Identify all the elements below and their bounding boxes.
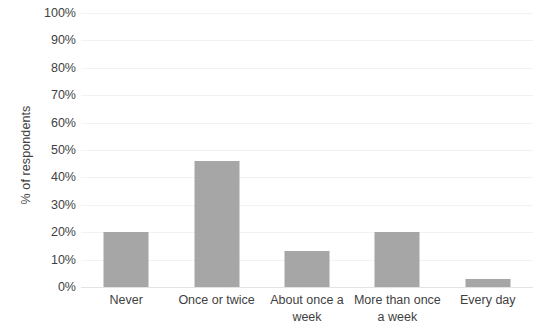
bar-slot bbox=[443, 13, 533, 287]
bar[interactable] bbox=[104, 232, 149, 287]
x-axis-tick-labels: NeverOnce or twiceAbout once a weekMore … bbox=[81, 292, 533, 332]
y-axis-tick-label: 10% bbox=[30, 253, 76, 267]
bar[interactable] bbox=[375, 232, 420, 287]
y-axis-tick-labels: 100%90%80%70%60%50%40%30%20%10%0% bbox=[30, 0, 76, 296]
x-axis-line bbox=[81, 287, 533, 288]
bar[interactable] bbox=[194, 161, 239, 287]
y-axis-tick-label: 100% bbox=[30, 6, 76, 20]
y-axis-tick-label: 80% bbox=[30, 61, 76, 75]
y-axis-tick-label: 40% bbox=[30, 170, 76, 184]
bar[interactable] bbox=[284, 251, 329, 287]
x-axis-tick-label: Once or twice bbox=[171, 292, 261, 309]
x-axis-tick-label: About once a week bbox=[262, 292, 352, 326]
y-axis-tick-label: 90% bbox=[30, 33, 76, 47]
bar[interactable] bbox=[465, 279, 510, 287]
bar-slot bbox=[81, 13, 171, 287]
bar-slot bbox=[352, 13, 442, 287]
bar-slot bbox=[171, 13, 261, 287]
bar-slot bbox=[262, 13, 352, 287]
y-axis-tick-label: 60% bbox=[30, 116, 76, 130]
y-axis-tick-label: 50% bbox=[30, 143, 76, 157]
x-axis-tick-label: Every day bbox=[443, 292, 533, 309]
bar-chart-figure: % of respondents 100%90%80%70%60%50%40%3… bbox=[0, 0, 540, 332]
y-axis-tick-label: 0% bbox=[30, 280, 76, 294]
y-axis-tick-label: 30% bbox=[30, 198, 76, 212]
x-axis-tick-label: Never bbox=[81, 292, 171, 309]
x-axis-tick-label: More than once a week bbox=[352, 292, 442, 326]
bars-layer bbox=[81, 13, 533, 287]
y-axis-tick-label: 70% bbox=[30, 88, 76, 102]
y-axis-tick-label: 20% bbox=[30, 225, 76, 239]
